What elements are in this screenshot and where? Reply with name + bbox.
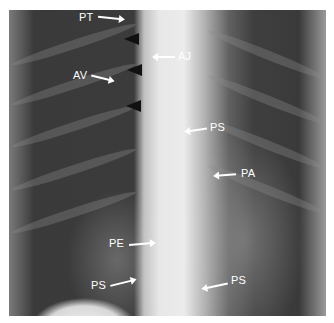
label-pa: PA bbox=[241, 168, 255, 179]
rib-shadow bbox=[207, 72, 326, 127]
label-ps-low-left: PS bbox=[91, 280, 106, 291]
rib-shadow bbox=[11, 20, 137, 69]
label-aj: AJ bbox=[178, 51, 191, 62]
label-av: AV bbox=[73, 70, 87, 81]
rib-shadow bbox=[207, 27, 326, 82]
arrowhead-marker-3 bbox=[126, 100, 141, 112]
arrowhead-marker-2 bbox=[127, 64, 142, 76]
arrow-aj bbox=[155, 56, 175, 58]
label-pt: PT bbox=[79, 12, 93, 23]
rib-shadow bbox=[11, 102, 137, 151]
rib-shadow bbox=[11, 60, 137, 109]
rib-shadow bbox=[11, 145, 137, 194]
rib-shadow bbox=[11, 188, 137, 237]
label-ps-mid: PS bbox=[210, 122, 225, 133]
label-ps-low-right: PS bbox=[231, 275, 246, 286]
label-pe: PE bbox=[109, 238, 124, 249]
rib-shadow bbox=[207, 162, 326, 217]
arrowhead-marker-1 bbox=[124, 33, 139, 45]
